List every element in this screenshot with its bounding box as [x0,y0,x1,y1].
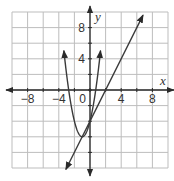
y-axis-label: y [93,9,101,24]
x-tick-label: −8 [21,92,35,106]
y-tick-label: 8 [78,21,85,35]
y-tick-label: 4 [78,52,85,66]
origin-label: 0 [79,92,86,106]
tick-labels: −8−448048xy [21,9,166,106]
plotted-graphs [64,15,143,169]
x-tick-label: −4 [52,92,66,106]
x-axis-label: x [159,73,166,88]
x-tick-label: 8 [149,92,156,106]
line-graph [66,15,143,169]
axes [6,6,174,176]
coordinate-plane: −8−448048xy [0,0,174,181]
x-tick-label: 4 [118,92,125,106]
